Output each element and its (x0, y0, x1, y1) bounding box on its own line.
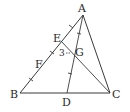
tick-mark-ag (77, 33, 81, 34)
triangle-diagram: A B C D E F G 3 (0, 0, 130, 112)
label-g: G (75, 46, 84, 59)
label-a: A (77, 2, 87, 15)
length-label: 3 (59, 48, 65, 58)
label-d: D (62, 96, 71, 109)
label-f: F (35, 58, 43, 71)
label-c: C (112, 88, 120, 101)
label-e: E (53, 32, 61, 45)
tick-mark-ae (69, 25, 73, 28)
label-b: B (10, 88, 18, 101)
segment-ca (83, 15, 110, 93)
